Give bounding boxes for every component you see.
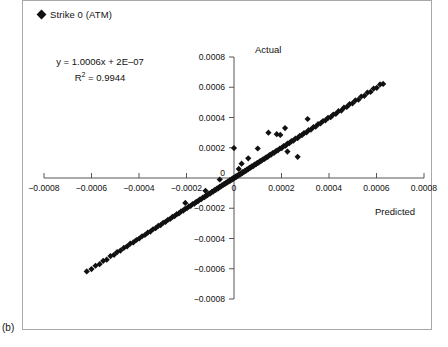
scatter-plot-canvas: −0.0008−0.0006−0.0004−0.000200.00020.000… [0, 0, 448, 330]
y-axis-tick-label: 0.0004 [199, 113, 226, 123]
x-axis-tick-label: 0.0002 [268, 183, 295, 193]
y-axis-tick-label: −0.0004 [194, 234, 226, 244]
scatter-point [284, 148, 290, 154]
figure-panel: (b) Strike 0 (ATM) y = 1.0006x + 2E–07 R… [0, 0, 448, 347]
scatter-point [239, 161, 245, 167]
x-axis-tick-label: 0.0004 [316, 183, 343, 193]
y-axis-tick-label: 0.0008 [199, 52, 226, 62]
y-axis-tick-label: 0 [220, 168, 225, 178]
x-axis-tick-label: −0.0002 [171, 183, 203, 193]
scatter-point [265, 130, 271, 136]
x-axis-tick-label: 0 [232, 183, 237, 193]
scatter-point [231, 145, 237, 151]
x-axis-tick-label: 0.0008 [411, 183, 438, 193]
scatter-point [305, 116, 311, 122]
x-axis-tick-label: −0.0008 [28, 183, 60, 193]
y-axis-tick-label: −0.0002 [194, 203, 226, 213]
y-axis-tick-label: −0.0008 [194, 294, 226, 304]
scatter-point [245, 155, 251, 161]
y-axis-tick-label: −0.0006 [194, 264, 226, 274]
scatter-point [282, 125, 288, 131]
x-axis-tick-label: −0.0004 [123, 183, 155, 193]
y-axis-tick-label: 0.0006 [199, 82, 226, 92]
x-axis-tick-label: 0.0006 [363, 183, 390, 193]
x-axis-tick-label: −0.0006 [76, 183, 108, 193]
y-axis-tick-label: 0.0002 [199, 143, 226, 153]
scatter-point [255, 145, 261, 151]
scatter-point [295, 154, 301, 160]
